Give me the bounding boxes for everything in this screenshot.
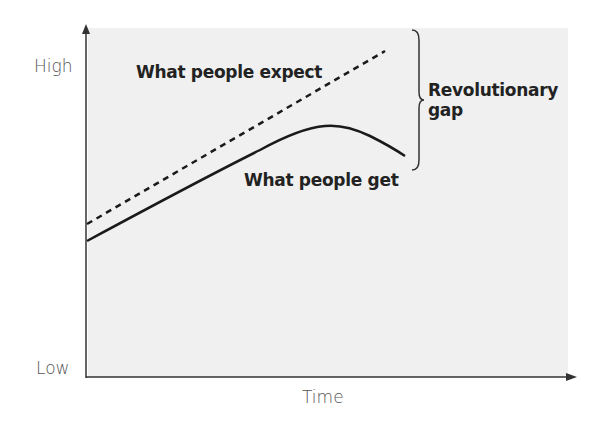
- expect-label: What people expect: [136, 62, 322, 82]
- x-axis-arrow-icon: [566, 373, 577, 381]
- get-label: What people get: [244, 170, 399, 190]
- x-axis-label: Time: [302, 387, 344, 407]
- gap-label-line1: Revolutionary: [428, 80, 558, 100]
- gap-label-line2: gap: [428, 100, 463, 120]
- y-high-label: High: [34, 56, 72, 76]
- y-axis-arrow-icon: [82, 24, 90, 34]
- y-low-label: Low: [36, 358, 69, 378]
- gap-brace: [412, 30, 424, 170]
